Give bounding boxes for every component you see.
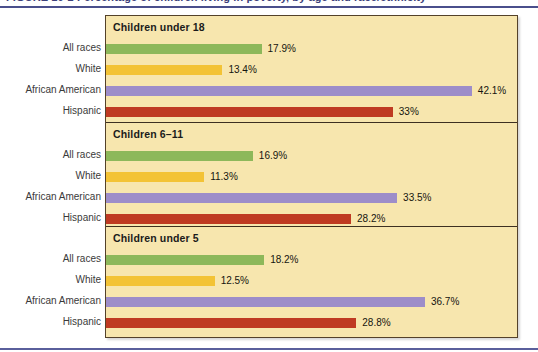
category-label: White	[75, 171, 101, 181]
chart-frame: Children under 1817.9%13.4%42.1%33%Child…	[105, 15, 518, 338]
bar	[106, 276, 215, 286]
bar-value-label: 33.5%	[403, 192, 431, 203]
bar-value-label: 28.2%	[357, 213, 385, 224]
bar	[106, 214, 351, 224]
category-label: African American	[25, 192, 101, 202]
bar-value-label: 36.7%	[431, 296, 459, 307]
bar-row: 17.9%	[106, 44, 517, 54]
bar-row: 33%	[106, 107, 517, 117]
category-label: African American	[25, 296, 101, 306]
category-label: Hispanic	[63, 317, 101, 327]
bar	[106, 44, 262, 54]
footer-rule	[0, 348, 538, 350]
bar	[106, 193, 397, 203]
bar-group: 18.2%12.5%36.7%28.8%	[106, 255, 517, 339]
bar	[106, 151, 253, 161]
bar-row: 33.5%	[106, 193, 517, 203]
chart-panel: Children under 518.2%12.5%36.7%28.8%	[106, 227, 517, 337]
bar	[106, 107, 393, 117]
category-label: All races	[63, 254, 101, 264]
panel-title: Children under 18	[113, 21, 205, 33]
category-label: All races	[63, 150, 101, 160]
bar-value-label: 42.1%	[478, 85, 506, 96]
category-label: All races	[63, 43, 101, 53]
bar-value-label: 12.5%	[221, 275, 249, 286]
bar	[106, 65, 222, 75]
bar-row: 12.5%	[106, 276, 517, 286]
bar-row: 18.2%	[106, 255, 517, 265]
category-label: White	[75, 275, 101, 285]
bar-value-label: 33%	[399, 106, 419, 117]
bar-row: 42.1%	[106, 86, 517, 96]
bar-group: 17.9%13.4%42.1%33%	[106, 44, 517, 128]
bar	[106, 86, 472, 96]
bar-row: 28.2%	[106, 214, 517, 224]
bar-row: 36.7%	[106, 297, 517, 307]
panel-title: Children 6–11	[113, 128, 183, 140]
bar-value-label: 18.2%	[270, 254, 298, 265]
bar	[106, 297, 425, 307]
bar-row: 16.9%	[106, 151, 517, 161]
chart-panel: Children under 1817.9%13.4%42.1%33%	[106, 16, 517, 123]
bar-row: 11.3%	[106, 172, 517, 182]
bar	[106, 255, 264, 265]
bar-row: 28.8%	[106, 318, 517, 328]
category-label: White	[75, 64, 101, 74]
bar-value-label: 17.9%	[268, 43, 296, 54]
panel-title: Children under 5	[113, 232, 199, 244]
category-label: Hispanic	[63, 106, 101, 116]
category-label: African American	[25, 85, 101, 95]
category-labels: All racesWhiteAfrican AmericanHispanicAl…	[0, 0, 105, 352]
bar-value-label: 16.9%	[259, 150, 287, 161]
bar-value-label: 28.8%	[362, 317, 390, 328]
category-label: Hispanic	[63, 213, 101, 223]
bar-value-label: 11.3%	[210, 171, 238, 182]
bar	[106, 172, 204, 182]
bar-row: 13.4%	[106, 65, 517, 75]
bar	[106, 318, 356, 328]
chart-panel: Children 6–1116.9%11.3%33.5%28.2%	[106, 123, 517, 227]
bar-value-label: 13.4%	[228, 64, 256, 75]
bar-group: 16.9%11.3%33.5%28.2%	[106, 151, 517, 235]
